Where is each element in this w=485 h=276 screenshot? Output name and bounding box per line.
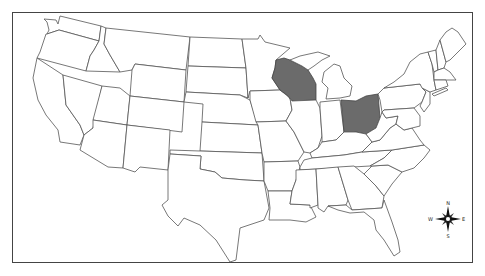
compass-west-label: W (428, 216, 433, 222)
state-ohio[interactable] (341, 94, 380, 134)
us-map: N S E W (0, 0, 485, 276)
compass-rose-icon: N S E W (428, 200, 465, 240)
state-iowa[interactable] (250, 90, 292, 122)
state-kansas[interactable] (200, 122, 262, 153)
compass-north-label: N (446, 200, 450, 206)
state-wyoming[interactable] (130, 64, 186, 102)
compass-south-label: S (446, 233, 449, 239)
state-north-dakota[interactable] (188, 37, 246, 68)
state-new-mexico[interactable] (123, 125, 170, 172)
compass-east-label: E (462, 216, 465, 222)
